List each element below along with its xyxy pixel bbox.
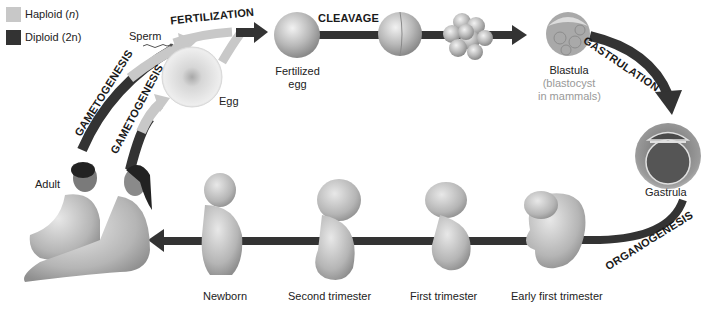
cleavage-arrowhead [512, 25, 527, 45]
sperm-label: Sperm [129, 30, 161, 43]
gastrula-label: Gastrula [645, 186, 687, 199]
newborn-icon [202, 173, 243, 275]
development-arrowhead [148, 229, 164, 252]
gastrula-icon [635, 123, 701, 189]
blastula-label: Blastula (blastocyst in mammals) [538, 64, 600, 103]
adult-label: Adult [35, 178, 60, 191]
morula-icon [443, 13, 493, 60]
haploid-swatch [6, 7, 21, 22]
diploid-label: Diploid (2n) [25, 31, 81, 43]
first-trimester-fetus-icon [425, 182, 471, 270]
blastula-icon [546, 12, 590, 56]
second-trimester-fetus-icon [315, 179, 361, 280]
second-trimester-label: Second trimester [288, 290, 371, 303]
early-first-trimester-label: Early first trimester [511, 290, 603, 303]
egg-icon [162, 47, 222, 107]
cleavage-label: CLEAVAGE [318, 12, 379, 24]
fertilized-egg-icon [274, 12, 320, 58]
early-first-trimester-embryo-icon [524, 191, 585, 268]
newborn-label: Newborn [203, 290, 247, 303]
fertilized-egg-label: Fertilized egg [270, 65, 325, 91]
egg-label: Egg [219, 95, 239, 108]
two-cell-embryo-icon [378, 12, 422, 56]
first-trimester-label: First trimester [410, 290, 477, 303]
haploid-label: Haploid (n) [25, 8, 79, 20]
diploid-swatch [6, 30, 21, 45]
